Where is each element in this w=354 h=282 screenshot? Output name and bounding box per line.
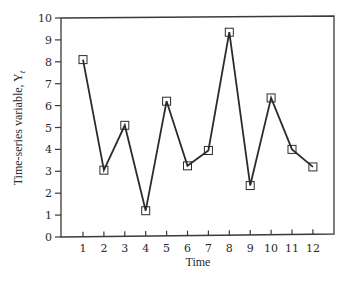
y-tick-label: 10 bbox=[38, 12, 52, 25]
x-tick-label: 6 bbox=[184, 242, 191, 255]
x-tick-label: 1 bbox=[80, 242, 87, 255]
y-tick-label: 3 bbox=[45, 165, 52, 178]
x-tick-label: 8 bbox=[226, 242, 233, 255]
y-tick-label: 0 bbox=[45, 231, 52, 244]
y-tick-label: 5 bbox=[45, 122, 52, 135]
y-axis-ticks: 012345678910 bbox=[38, 12, 61, 244]
x-tick-label: 3 bbox=[121, 242, 128, 255]
y-axis-title-main: Time-series variable, Y bbox=[11, 73, 25, 185]
series-line bbox=[83, 32, 313, 211]
x-tick-label: 11 bbox=[285, 242, 299, 255]
x-tick-label: 4 bbox=[142, 242, 149, 255]
y-axis-title: Time-series variable, Yt bbox=[11, 70, 27, 185]
y-axis-title-subscript: t bbox=[17, 70, 27, 73]
plot-frame bbox=[61, 16, 334, 237]
data-line bbox=[83, 32, 313, 211]
x-tick-label: 7 bbox=[205, 242, 212, 255]
y-tick-label: 9 bbox=[45, 34, 52, 47]
x-axis-title: Time bbox=[186, 255, 211, 269]
x-axis-ticks: 123456789101112 bbox=[80, 229, 320, 255]
x-tick-label: 2 bbox=[100, 242, 107, 255]
y-tick-label: 8 bbox=[45, 56, 52, 69]
y-tick-label: 7 bbox=[45, 78, 52, 91]
x-tick-label: 9 bbox=[247, 242, 254, 255]
time-series-chart: 012345678910 123456789101112 Time Time-s… bbox=[0, 0, 354, 282]
x-tick-label: 12 bbox=[306, 242, 320, 255]
plot-border bbox=[61, 16, 334, 237]
y-tick-label: 4 bbox=[45, 143, 52, 156]
y-tick-label: 2 bbox=[45, 187, 52, 200]
x-tick-label: 5 bbox=[163, 242, 170, 255]
y-tick-label: 1 bbox=[45, 209, 52, 222]
x-tick-label: 10 bbox=[264, 242, 278, 255]
y-tick-label: 6 bbox=[45, 100, 52, 113]
